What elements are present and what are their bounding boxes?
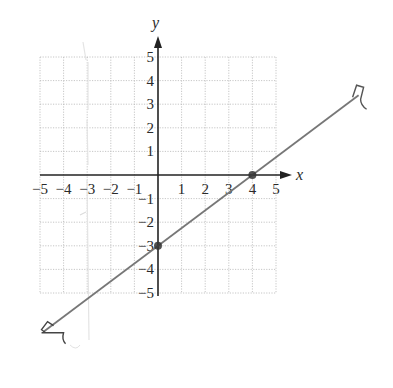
y-tick-label: 4 — [147, 73, 155, 89]
plotted-point — [154, 242, 162, 250]
x-tick-label: −2 — [103, 181, 119, 197]
axes: x y — [40, 14, 303, 296]
x-axis-label: x — [295, 166, 303, 183]
y-tick-label: 5 — [147, 49, 155, 65]
y-axis-arrow-icon — [154, 36, 162, 48]
data-series — [42, 85, 367, 343]
graphed-line — [44, 95, 359, 331]
y-tick-label: −5 — [138, 285, 154, 301]
y-tick-label: −1 — [138, 191, 154, 207]
plotted-point — [248, 171, 256, 179]
y-tick-label: 1 — [147, 143, 155, 159]
x-tick-label: 4 — [249, 181, 257, 197]
y-tick-label: −4 — [138, 261, 154, 277]
x-tick-label: −4 — [56, 181, 72, 197]
y-axis-label: y — [150, 14, 160, 32]
x-axis-arrow-icon — [280, 171, 292, 179]
x-tick-label: 5 — [272, 181, 280, 197]
arrow-start-icon — [42, 322, 66, 344]
y-tick-label: −2 — [138, 214, 154, 230]
coordinate-plane: x y −5−4−3−2−11234554321−1−2−3−4−5 — [0, 0, 393, 388]
y-tick-label: 2 — [147, 120, 155, 136]
x-tick-label: 1 — [178, 181, 186, 197]
x-tick-label: −3 — [79, 181, 95, 197]
x-tick-label: 2 — [201, 181, 209, 197]
y-tick-label: 3 — [147, 96, 155, 112]
x-tick-label: −5 — [32, 181, 48, 197]
